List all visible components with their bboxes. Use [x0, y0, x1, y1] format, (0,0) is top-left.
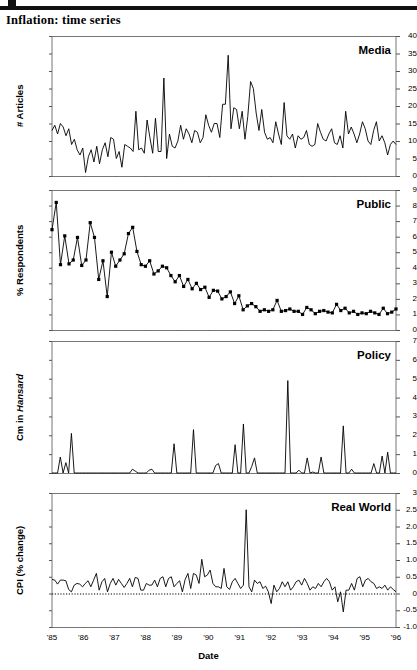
- data-series-line: [52, 55, 396, 172]
- panel-realworld: -1.0-0.500.51.01.52.02.53Real WorldCPI (…: [0, 493, 417, 627]
- y-axis-tick-label: 3: [371, 279, 417, 287]
- series-title-realworld: Real World: [331, 501, 391, 513]
- y-axis-tick-label: 25: [371, 85, 417, 93]
- y-axis-tick-label: 0: [371, 469, 417, 477]
- page-title: Inflation: time series: [6, 13, 121, 28]
- y-axis-tick-label: 20: [371, 102, 417, 110]
- y-axis-tick-label: 7: [371, 337, 417, 345]
- y-axis-tick-label: 1.5: [371, 539, 417, 547]
- plot-realworld: [0, 493, 417, 628]
- y-axis-tick-label: 9: [371, 186, 417, 194]
- y-axis-tick-label: 5: [371, 155, 417, 163]
- y-axis-tick-label: 3: [371, 412, 417, 420]
- y-axis-title-policy: Cm in Hansard: [14, 373, 25, 440]
- data-point-markers: [50, 201, 397, 316]
- panel-policy: 01234567PolicyCm in Hansard: [0, 341, 417, 473]
- y-axis-tick-label: 5: [371, 248, 417, 256]
- x-axis-tick-label: '88: [132, 634, 160, 642]
- x-axis-tick-label: '96: [382, 634, 410, 642]
- y-axis-title-public: % Respondents: [14, 224, 25, 295]
- x-axis-tick-label: '94: [319, 634, 347, 642]
- data-series-line: [52, 381, 396, 473]
- y-axis-tick-label: 15: [371, 120, 417, 128]
- y-axis-ticks: [49, 494, 400, 628]
- y-axis-ticks: [49, 342, 400, 474]
- y-axis-tick-label: 0.5: [371, 573, 417, 581]
- series-title-public: Public: [356, 198, 391, 210]
- y-axis-tick-label: 7: [371, 217, 417, 225]
- x-axis-tick-label: '85: [38, 634, 66, 642]
- y-axis-tick-label: 5: [371, 375, 417, 383]
- y-axis-tick-label: 1.0: [371, 556, 417, 564]
- x-axis-tick-label: '92: [257, 634, 285, 642]
- y-axis-tick-label: 2: [371, 431, 417, 439]
- panel-public: 0123456789Public% Respondents: [0, 190, 417, 330]
- y-axis-tick-label: -0.5: [371, 606, 417, 614]
- y-axis-tick-label: 0: [371, 326, 417, 334]
- plot-media: [0, 36, 417, 177]
- series-title-media: Media: [358, 44, 391, 56]
- y-axis-tick-label: 6: [371, 233, 417, 241]
- plot-frame: [52, 494, 396, 628]
- y-axis-tick-label: 1: [371, 310, 417, 318]
- y-axis-tick-label: 3: [371, 489, 417, 497]
- y-axis-tick-label: 0: [371, 172, 417, 180]
- y-axis-tick-label: 2.0: [371, 523, 417, 531]
- y-axis-tick-label: 2: [371, 295, 417, 303]
- y-axis-tick-label: 1: [371, 450, 417, 458]
- y-axis-title-realworld: CPI (% change): [14, 525, 25, 594]
- y-axis-tick-label: 40: [371, 32, 417, 40]
- series-title-policy: Policy: [357, 349, 391, 361]
- x-axis-tick-label: '89: [163, 634, 191, 642]
- y-axis-tick-label: 4: [371, 264, 417, 272]
- x-axis-tick-label: '87: [101, 634, 129, 642]
- x-axis-title: Date: [0, 650, 417, 661]
- plot-policy: [0, 341, 417, 474]
- data-series-line: [52, 510, 396, 612]
- x-axis-tick-label: '95: [351, 634, 379, 642]
- y-axis-tick-label: 0: [371, 590, 417, 598]
- y-axis-tick-label: 4: [371, 394, 417, 402]
- panel-media: 0510152025303540Media# Articles: [0, 36, 417, 176]
- y-axis-tick-label: 30: [371, 67, 417, 75]
- y-axis-tick-label: -1.0: [371, 623, 417, 631]
- header-rule: [0, 6, 417, 10]
- x-axis-tick-label: '91: [226, 634, 254, 642]
- data-series-line: [52, 202, 396, 314]
- x-axis-tick-label: '90: [194, 634, 222, 642]
- y-axis-title-media: # Articles: [14, 85, 25, 127]
- x-axis-tick-label: '86: [69, 634, 97, 642]
- y-axis-tick-label: 10: [371, 137, 417, 145]
- plot-frame: [52, 342, 396, 474]
- x-axis-tick-label: '93: [288, 634, 316, 642]
- y-axis-ticks: [49, 37, 400, 177]
- plot-frame: [52, 37, 396, 177]
- plot-public: [0, 190, 417, 331]
